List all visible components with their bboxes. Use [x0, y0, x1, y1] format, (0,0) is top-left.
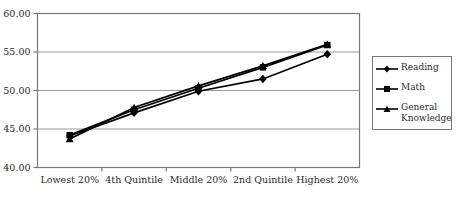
legend-label-reading: Reading — [401, 62, 439, 73]
legend-item-math: Math — [376, 82, 447, 95]
legend-item-general-knowledge: General Knowledge — [376, 102, 447, 124]
data-point-marker — [259, 75, 267, 83]
data-point-marker — [324, 50, 332, 58]
y-tick-label: 45.00 — [3, 123, 30, 134]
x-tick-label: Middle 20% — [170, 174, 228, 185]
legend-label-math: Math — [401, 82, 425, 93]
legend-item-reading: Reading — [376, 62, 447, 75]
x-tick-label: Lowest 20% — [40, 174, 99, 185]
legend-label-general-knowledge: General Knowledge — [401, 102, 452, 124]
legend-key-triangle-icon — [376, 103, 398, 115]
y-tick-label: 40.00 — [3, 162, 30, 173]
x-tick-label: 2nd Quintile — [233, 174, 293, 185]
legend-key-square-icon — [376, 83, 398, 95]
y-tick-label: 60.00 — [3, 8, 30, 19]
x-tick-label: 4th Quintile — [105, 174, 163, 185]
legend-key-diamond-icon — [376, 63, 398, 75]
y-tick-label: 50.00 — [3, 85, 30, 96]
line-chart: 40.0045.0050.0055.0060.00Lowest 20%4th Q… — [0, 0, 460, 201]
chart-legend: Reading Math General Knowledge — [372, 56, 452, 130]
x-tick-label: Highest 20% — [296, 174, 358, 185]
y-tick-label: 55.00 — [3, 46, 30, 57]
